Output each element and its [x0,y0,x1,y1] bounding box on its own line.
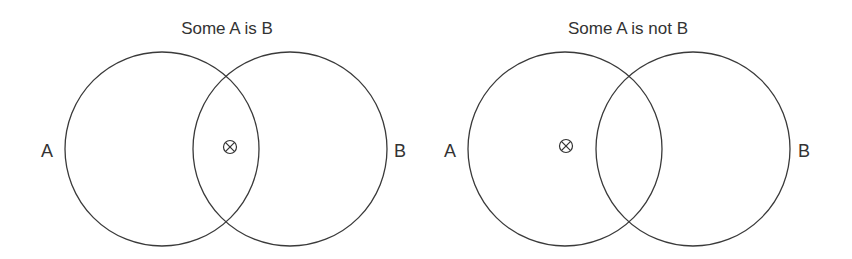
existence-marker-icon [560,140,573,153]
set-b-circle [193,52,387,246]
diagram-title: Some A is not B [568,19,688,38]
set-a-circle [468,52,662,246]
existence-marker-icon [224,141,237,154]
diagram-title: Some A is B [181,19,273,38]
venn-diagram-some-a-is-b: Some A is B A B [41,19,406,246]
set-b-circle [596,52,790,246]
set-a-label: A [41,141,53,161]
set-b-label: B [394,141,406,161]
set-a-circle [65,52,259,246]
set-b-label: B [798,141,810,161]
venn-diagram-some-a-is-not-b: Some A is not B A B [444,19,810,246]
set-a-label: A [444,141,456,161]
venn-canvas: Some A is B A B Some A is not B A B [0,0,852,259]
venn-diagram-figure: Some A is B A B Some A is not B A B [0,0,852,259]
